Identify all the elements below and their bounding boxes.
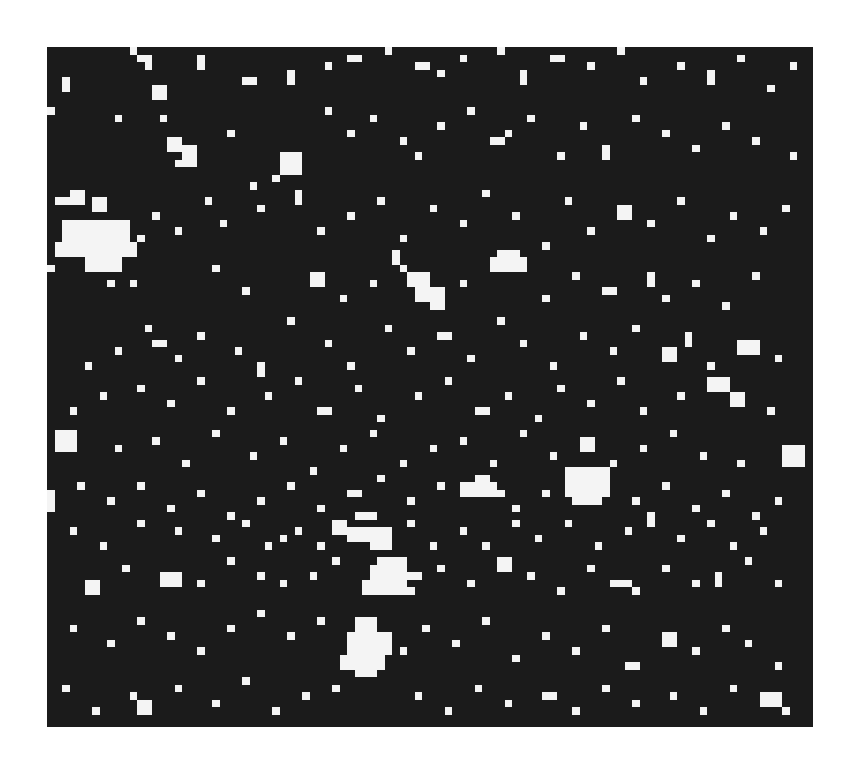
white-cell [415, 62, 430, 70]
white-cell [445, 377, 453, 385]
white-cell [242, 677, 250, 685]
white-cell [385, 47, 393, 55]
white-cell [475, 407, 490, 415]
white-cell [662, 565, 670, 573]
white-cell [85, 257, 123, 272]
white-cell [542, 242, 550, 250]
white-cell [250, 452, 258, 460]
white-cell [602, 287, 617, 295]
white-cell [722, 302, 730, 310]
white-cell [167, 400, 175, 408]
white-cell [475, 475, 490, 483]
white-cell [775, 355, 783, 363]
white-cell [572, 272, 580, 280]
white-cell [310, 272, 325, 287]
white-cell [107, 497, 115, 505]
white-cell [347, 490, 362, 498]
white-cell [437, 122, 445, 130]
white-cell [632, 115, 640, 123]
white-cell [197, 55, 205, 70]
white-cell [287, 70, 295, 85]
white-cell [152, 437, 160, 445]
white-cell [437, 70, 445, 78]
white-cell [377, 197, 385, 205]
white-cell [617, 47, 625, 55]
white-cell [775, 580, 783, 588]
white-cell [550, 452, 558, 460]
white-cell [782, 205, 790, 213]
white-cell [317, 407, 332, 415]
white-cell [400, 647, 408, 655]
white-cell [662, 130, 670, 138]
white-cell [505, 130, 513, 138]
white-cell [602, 685, 610, 693]
white-cell [460, 220, 468, 228]
white-cell [527, 572, 535, 580]
white-cell [505, 392, 513, 400]
white-cell [460, 437, 468, 445]
white-cell [760, 692, 783, 707]
white-cell [47, 265, 55, 273]
white-cell [107, 280, 115, 288]
white-cell [242, 520, 250, 528]
white-cell [400, 265, 408, 273]
white-cell [325, 62, 333, 70]
white-cell [520, 430, 528, 438]
white-cell [92, 707, 100, 715]
white-cell [430, 302, 445, 310]
white-cell [467, 107, 475, 115]
white-cell [685, 332, 693, 347]
white-cell [707, 377, 730, 392]
white-cell [47, 107, 55, 115]
white-cell [647, 512, 655, 527]
white-cell [790, 152, 798, 160]
white-cell [677, 197, 685, 205]
white-cell [70, 407, 78, 415]
white-cell [167, 632, 175, 640]
white-cell [355, 385, 363, 393]
white-cell [227, 625, 235, 633]
white-cell [197, 377, 205, 385]
white-cell [542, 295, 550, 303]
white-cell [85, 362, 93, 370]
white-cell [610, 347, 618, 355]
white-cell [62, 77, 70, 92]
white-cell [490, 257, 528, 272]
white-cell [497, 47, 505, 55]
white-cell [212, 265, 220, 273]
white-cell [445, 707, 453, 715]
white-cell [167, 137, 182, 152]
white-cell [497, 557, 512, 572]
white-cell [580, 122, 588, 130]
white-cell [460, 490, 505, 498]
white-cell [662, 295, 670, 303]
white-cell [197, 647, 205, 655]
white-cell [580, 332, 588, 340]
white-cell [197, 490, 205, 498]
white-cell [70, 527, 78, 535]
white-cell [557, 587, 565, 595]
white-cell [422, 625, 430, 633]
white-cell [400, 137, 408, 145]
white-cell [295, 377, 303, 385]
white-cell [767, 85, 775, 93]
white-cell [415, 392, 423, 400]
white-cell [542, 632, 550, 640]
white-cell [130, 47, 138, 55]
white-cell [100, 392, 108, 400]
white-cell [460, 55, 468, 63]
white-cell [137, 617, 145, 625]
white-cell [152, 212, 160, 220]
white-cell [677, 392, 685, 400]
white-cell [752, 272, 760, 280]
white-cell [580, 437, 595, 452]
white-cell [272, 707, 280, 715]
white-cell [400, 460, 408, 468]
white-cell [317, 617, 325, 625]
white-cell [347, 632, 392, 655]
white-cell [790, 62, 798, 70]
white-cell [467, 580, 475, 588]
white-cell [145, 325, 153, 333]
white-cell [437, 482, 445, 490]
white-cell [662, 632, 677, 647]
